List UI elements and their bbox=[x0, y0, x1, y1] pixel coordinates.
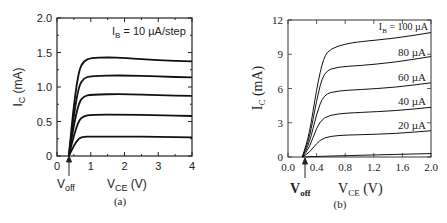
xtick-label: 0.0 bbox=[281, 161, 295, 173]
ytick-label: 0.5 bbox=[37, 116, 52, 128]
chart-b-xlabel: VCE (V) bbox=[338, 181, 383, 198]
chart-b-label-40: 40 µA bbox=[398, 95, 426, 107]
chart-a-voff-label: Voff bbox=[57, 177, 75, 193]
ytick-label: 9 bbox=[278, 48, 284, 60]
series-line bbox=[302, 131, 431, 157]
chart-b-label-60: 60 µA bbox=[398, 71, 426, 83]
voff-arrow-icon bbox=[303, 158, 308, 178]
chart-a-xtick-labels: 01234 bbox=[54, 160, 195, 172]
ytick-label: 12 bbox=[272, 14, 283, 26]
xtick-label: 2.0 bbox=[424, 161, 438, 173]
ytick-label: 2.0 bbox=[37, 12, 52, 24]
chart-a-series bbox=[69, 58, 192, 156]
chart-a-xlabel: VCE (V) bbox=[107, 177, 147, 193]
series-line bbox=[69, 115, 192, 156]
series-line bbox=[69, 94, 192, 156]
ytick-label: 0 bbox=[46, 150, 52, 162]
series-line bbox=[69, 58, 192, 156]
xtick-label: 1 bbox=[88, 160, 94, 172]
xtick-label: 3 bbox=[155, 160, 161, 172]
xtick-label: 4 bbox=[189, 160, 195, 172]
xtick-label: 0.8 bbox=[338, 161, 352, 173]
chart-b-voff-label: Voff bbox=[290, 181, 312, 198]
chart-a: 00.51.01.52.0 01234 IB = 10 µA/step IC (… bbox=[11, 12, 195, 208]
chart-b-ylabel: IC (mA) bbox=[250, 65, 267, 110]
ytick-label: 6 bbox=[278, 83, 284, 95]
figure: 00.51.01.52.0 01234 IB = 10 µA/step IC (… bbox=[0, 0, 447, 223]
xtick-label: 1.6 bbox=[396, 161, 410, 173]
ytick-label: 1.0 bbox=[37, 81, 52, 93]
xtick-label: 1.2 bbox=[367, 161, 381, 173]
chart-a-ytick-labels: 00.51.01.52.0 bbox=[37, 12, 52, 162]
chart-b: 036912 0.00.40.81.21.62.0 IB = 100 µA 80… bbox=[250, 14, 438, 211]
chart-a-ylabel: IC (mA) bbox=[11, 67, 27, 106]
chart-a-caption: (a) bbox=[114, 195, 127, 208]
chart-a-annotation: IB = 10 µA/step bbox=[112, 25, 186, 40]
chart-b-label-80: 80 µA bbox=[398, 46, 426, 58]
chart-b-caption: (b) bbox=[334, 198, 347, 211]
voff-arrow-icon bbox=[67, 156, 72, 176]
ytick-label: 1.5 bbox=[37, 47, 52, 59]
chart-b-label-20: 20 µA bbox=[398, 119, 426, 131]
xtick-label: 2 bbox=[121, 160, 127, 172]
chart-b-ytick-labels: 036912 bbox=[272, 14, 284, 163]
ytick-label: 3 bbox=[278, 117, 284, 129]
xtick-label: 0.4 bbox=[310, 161, 324, 173]
series-line bbox=[69, 137, 192, 156]
series-line bbox=[302, 154, 431, 157]
chart-b-label-100: IB = 100 µA bbox=[379, 21, 429, 35]
xtick-label: 0 bbox=[54, 160, 60, 172]
